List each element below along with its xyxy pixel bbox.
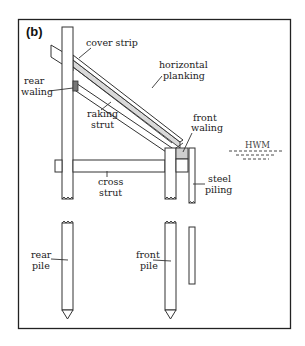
svg-text:steel: steel [208,173,231,184]
svg-text:strut: strut [91,119,114,130]
svg-text:strut: strut [99,187,122,198]
front-pile-upper [165,148,176,199]
cross-strut [73,160,165,172]
svg-text:rear: rear [24,75,45,86]
svg-text:pile: pile [140,260,158,271]
svg-text:HWM: HWM [245,140,270,150]
svg-text:pile: pile [32,260,50,271]
svg-text:cross: cross [98,176,123,187]
cross-strut-block [55,160,62,172]
panel-label: (b) [26,24,43,39]
front-waling [176,148,188,159]
svg-text:front: front [136,249,160,260]
svg-text:horizontal: horizontal [159,59,208,70]
svg-text:raking: raking [87,108,118,119]
svg-text:waling: waling [21,86,53,97]
svg-text:rear: rear [31,249,52,260]
svg-text:waling: waling [191,122,223,133]
front-pile-lower [165,223,176,310]
steel-piling-upper [189,148,195,203]
svg-text:piling: piling [205,184,232,195]
hwm-symbol: HWM [229,140,282,159]
figure-frame [19,20,291,329]
rear-pile-lower [62,223,73,310]
steel-piling-lower [189,227,195,284]
svg-text:cover strip: cover strip [86,37,138,48]
rear-waling [73,81,78,91]
timber-groyne-diagram: (b) HWM cover strip horizontal planking [0,0,305,346]
rear-pile-tip [62,310,73,319]
front-pile-tip [165,310,176,319]
rear-pile-upper [62,27,73,199]
raking-strut [73,81,175,158]
svg-text:planking: planking [163,70,205,81]
